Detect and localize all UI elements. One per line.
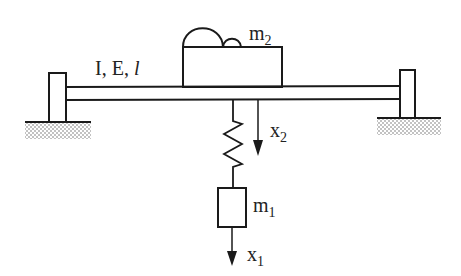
left-ground-hatch <box>25 123 91 139</box>
displacement-x2-label: x2 <box>270 119 287 145</box>
mass-m1-block <box>218 188 246 227</box>
beam-mass-spring-diagram: I, E, l m2 x2 m1 x1 <box>0 0 461 276</box>
displacement-x1-label: x1 <box>247 243 264 269</box>
beam-properties-label: I, E, l <box>95 57 140 79</box>
spring <box>224 100 242 187</box>
left-support <box>25 73 91 139</box>
small-dome <box>223 39 241 47</box>
displacement-arrow-x2 <box>253 100 263 156</box>
left-post <box>49 73 66 122</box>
right-post <box>400 70 415 118</box>
right-ground-hatch <box>377 119 441 135</box>
beam <box>66 86 400 100</box>
right-support <box>377 70 441 135</box>
mass-m2-block <box>183 47 282 87</box>
mass-m1-label: m1 <box>253 194 276 220</box>
displacement-arrow-x1 <box>227 227 237 266</box>
large-dome <box>183 28 223 47</box>
mass-m2-label: m2 <box>249 22 272 48</box>
